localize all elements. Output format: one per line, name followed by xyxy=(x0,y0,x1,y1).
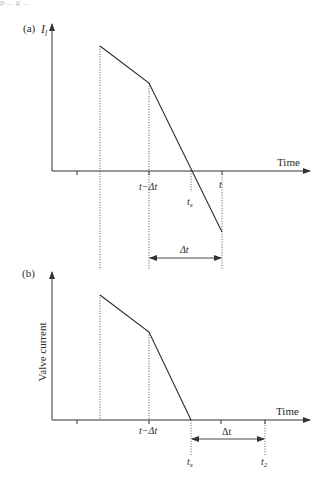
panel-a-label: (a) xyxy=(23,22,36,35)
y-axis-label-valve-current: Valve current xyxy=(36,323,48,382)
tick-label-t-minus-dt: t−Δt xyxy=(139,425,157,436)
tick-label-tx: tx xyxy=(187,196,194,209)
panel-b-label: (b) xyxy=(22,267,35,280)
tick-label-t: t xyxy=(219,179,222,190)
interval-label-dt: Δt xyxy=(179,244,189,255)
interval-label-dt: Δt xyxy=(222,426,231,437)
tick-label-t-minus-dt: t−Δt xyxy=(139,181,157,192)
y-axis-label-il: Il xyxy=(40,22,48,38)
tick-label-tx: tx xyxy=(187,456,194,469)
commutation-diagram: (a) Il Time t−Δt tx t Δt (b) Valve curre… xyxy=(0,0,326,486)
x-axis-label-time: Time xyxy=(277,156,300,168)
tick-label-t2: t2 xyxy=(261,456,268,469)
valve-current-curve xyxy=(100,295,191,420)
panel-a: (a) Il Time t−Δt tx t Δt xyxy=(23,22,310,270)
current-curve xyxy=(100,46,222,232)
panel-b: (b) Valve current Time t−Δt tx t2 Δt xyxy=(22,267,310,469)
x-axis-label-time: Time xyxy=(276,405,299,417)
